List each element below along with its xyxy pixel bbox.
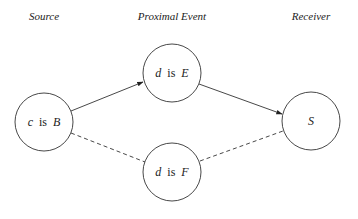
- edge-dE-to-S: [199, 84, 282, 114]
- edge-dF-to-S: [200, 131, 283, 161]
- header-proximal-event: Proximal Event: [137, 10, 207, 22]
- header-receiver: Receiver: [291, 10, 331, 22]
- node-variable: c: [28, 115, 34, 129]
- node-S: S: [282, 92, 340, 150]
- edge-cB-to-dE: [71, 82, 143, 111]
- node-c-is-B: c is B: [15, 93, 73, 151]
- node-predicate: F: [180, 165, 189, 179]
- header-source: Source: [29, 10, 59, 22]
- node-predicate: S: [308, 114, 314, 128]
- node-d-is-E: d is E: [143, 44, 201, 102]
- node-relation: is: [39, 115, 47, 129]
- edge-cB-to-dF: [71, 133, 145, 162]
- node-predicate: E: [180, 66, 189, 80]
- node-variable: d: [155, 165, 162, 179]
- causal-diagram: Source Proximal Event Receiver c is B d …: [0, 0, 358, 219]
- node-d-is-F: d is F: [143, 143, 201, 201]
- node-variable: d: [155, 66, 162, 80]
- svg-text:c is B: c is B: [28, 115, 61, 129]
- node-relation: is: [167, 165, 175, 179]
- svg-text:d is E: d is E: [155, 66, 189, 80]
- node-predicate: B: [53, 115, 61, 129]
- node-relation: is: [167, 66, 175, 80]
- svg-text:d is F: d is F: [155, 165, 189, 179]
